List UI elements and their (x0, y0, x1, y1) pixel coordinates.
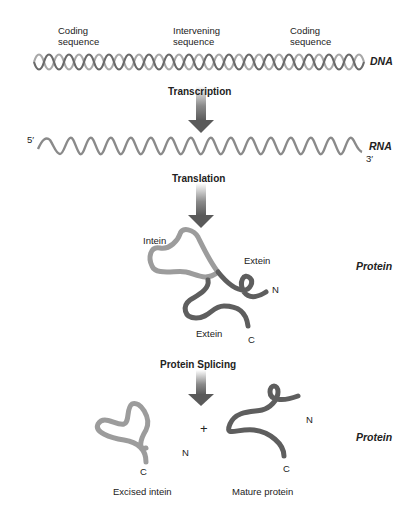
transcription-label: Transcription (168, 86, 231, 97)
translation-arrow (188, 183, 214, 228)
excised-intein-n-label: N (182, 447, 189, 458)
c-terminus-label: C (248, 334, 255, 345)
label-line: sequence (290, 36, 331, 47)
protein-splicing-label: Protein Splicing (160, 359, 236, 370)
n-terminus-label: N (272, 284, 279, 295)
rna-5-prime-label: 5′ (27, 134, 34, 145)
mature-protein (229, 386, 298, 456)
intervening-sequence-label: Intervening sequence (173, 25, 220, 47)
label-line: Intervening (173, 25, 220, 36)
precursor-protein (150, 230, 266, 326)
mature-protein-label: Mature protein (232, 486, 293, 497)
label-line: Coding (58, 25, 99, 36)
translation-label: Translation (172, 173, 225, 184)
intein-label: Intein (143, 235, 166, 246)
rna-label: RNA (369, 141, 392, 152)
excised-intein-label: Excised intein (113, 486, 172, 497)
label-line: Coding (290, 25, 331, 36)
protein-label-1: Protein (356, 261, 392, 272)
coding-sequence-label-2: Coding sequence (290, 25, 331, 47)
rna-strand (38, 138, 362, 154)
label-line: sequence (173, 36, 220, 47)
mature-protein-n-label: N (306, 414, 313, 425)
mature-protein-c-label: C (283, 463, 290, 474)
splicing-arrow (188, 370, 214, 406)
extein-top-label: Extein (244, 255, 270, 266)
dna-helix (34, 55, 364, 70)
plus-sign: + (200, 423, 208, 434)
coding-sequence-label-1: Coding sequence (58, 25, 99, 47)
extein-bottom-label: Extein (196, 328, 222, 339)
excised-intein-c-label: C (140, 466, 147, 477)
protein-label-2: Protein (356, 432, 392, 443)
excised-intein (97, 403, 147, 462)
label-line: sequence (58, 36, 99, 47)
rna-3-prime-label: 3′ (366, 153, 373, 164)
dna-label: DNA (370, 56, 393, 67)
